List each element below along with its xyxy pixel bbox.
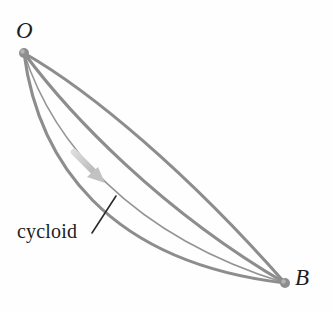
point-label-B: B [295,266,309,289]
motion-arrow-shaft [74,152,96,174]
motion-arrow [74,152,105,183]
diagram-canvas [0,0,333,311]
curve-group [24,53,285,283]
cycloid-curve-label: cycloid [17,221,77,241]
point-O-marker [19,48,29,58]
curve-cycloid-arc [24,53,285,283]
curve-shallow-arc [24,53,285,283]
point-label-O: O [16,19,33,42]
curve-medium-arc [24,53,285,283]
curve-thin-inner-arc [24,53,285,283]
cycloid-figure: O B cycloid [0,0,333,311]
point-B-marker [280,278,290,288]
